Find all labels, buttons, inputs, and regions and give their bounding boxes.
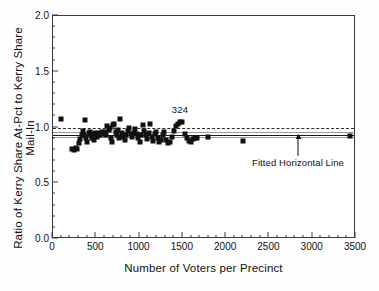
data-point xyxy=(171,129,176,134)
data-point xyxy=(137,139,142,144)
x-tick-label: 1500 xyxy=(171,241,193,252)
y-tick-minor xyxy=(52,148,55,149)
x-tick-minor xyxy=(164,235,165,238)
x-tick-minor xyxy=(259,235,260,238)
y-tick-minor xyxy=(52,193,55,194)
x-tick-minor xyxy=(329,235,330,238)
y-tick-major xyxy=(52,238,58,239)
y-tick-label: 1.0 xyxy=(35,121,49,132)
x-tick-minor xyxy=(147,235,148,238)
x-tick-minor xyxy=(103,235,104,238)
data-point xyxy=(154,129,159,134)
x-tick-major xyxy=(355,232,356,238)
x-tick-major xyxy=(138,232,139,238)
data-point xyxy=(109,139,114,144)
x-tick-label: 3000 xyxy=(301,241,323,252)
data-point xyxy=(169,134,174,139)
x-tick-minor xyxy=(60,235,61,238)
fitted-line-callout: Fitted Horizontal Line xyxy=(252,157,344,168)
x-tick-minor xyxy=(77,235,78,238)
y-tick-minor xyxy=(52,215,55,216)
y-tick-minor xyxy=(52,204,55,205)
plot-area: 324Fitted Horizontal Line xyxy=(53,16,354,237)
x-axis-title: Number of Voters per Precinct xyxy=(52,262,355,274)
y-axis-title: Ratio of Kerry Share At-Pct to Kerry Sha… xyxy=(12,18,36,258)
x-tick-label: 1000 xyxy=(127,241,149,252)
data-point xyxy=(140,123,145,128)
x-tick-major xyxy=(225,232,226,238)
data-point xyxy=(180,120,185,125)
y-tick-minor xyxy=(52,59,55,60)
x-tick-minor xyxy=(285,235,286,238)
x-tick-minor xyxy=(112,235,113,238)
x-tick-minor xyxy=(207,235,208,238)
y-tick-label: 1.5 xyxy=(35,65,49,76)
x-tick-major xyxy=(95,232,96,238)
data-point xyxy=(240,139,245,144)
x-tick-minor xyxy=(251,235,252,238)
y-tick-label: 0.5 xyxy=(35,177,49,188)
x-tick-minor xyxy=(86,235,87,238)
y-tick-minor xyxy=(52,48,55,49)
data-point xyxy=(205,135,210,140)
x-tick-label: 2500 xyxy=(257,241,279,252)
data-point xyxy=(118,117,123,122)
y-tick-minor xyxy=(52,37,55,38)
unity-dashed-line xyxy=(53,128,354,129)
x-tick-minor xyxy=(233,235,234,238)
fitted-line-arrow-icon xyxy=(297,135,298,156)
data-point xyxy=(59,117,64,122)
x-tick-label: 2000 xyxy=(214,241,236,252)
point-label-324: 324 xyxy=(172,104,188,115)
y-tick-minor xyxy=(52,159,55,160)
y-tick-major xyxy=(52,70,58,71)
x-tick-minor xyxy=(346,235,347,238)
x-tick-major xyxy=(311,232,312,238)
x-tick-major xyxy=(268,232,269,238)
y-tick-minor xyxy=(52,171,55,172)
data-point xyxy=(148,121,153,126)
x-tick-minor xyxy=(320,235,321,238)
cropped-caption xyxy=(10,283,369,290)
y-tick-minor xyxy=(52,226,55,227)
y-tick-minor xyxy=(52,115,55,116)
x-tick-minor xyxy=(199,235,200,238)
x-tick-minor xyxy=(129,235,130,238)
y-tick-major xyxy=(52,15,58,16)
data-point xyxy=(347,134,352,139)
x-tick-major xyxy=(181,232,182,238)
y-tick-minor xyxy=(52,81,55,82)
y-tick-major xyxy=(52,126,58,127)
x-tick-minor xyxy=(242,235,243,238)
y-tick-major xyxy=(52,182,58,183)
x-tick-minor xyxy=(155,235,156,238)
data-point xyxy=(83,117,88,122)
figure: Ratio of Kerry Share At-Pct to Kerry Sha… xyxy=(0,0,379,291)
x-tick-minor xyxy=(216,235,217,238)
data-point xyxy=(195,136,200,141)
y-tick-minor xyxy=(52,93,55,94)
x-tick-minor xyxy=(190,235,191,238)
y-tick-label: 2.0 xyxy=(35,10,49,21)
plot-frame: 324Fitted Horizontal Line xyxy=(52,15,355,238)
data-point xyxy=(75,146,80,151)
x-tick-minor xyxy=(69,235,70,238)
data-point xyxy=(167,139,172,144)
y-tick-label: 0.0 xyxy=(35,233,49,244)
x-tick-label: 0 xyxy=(49,241,55,252)
x-tick-label: 3500 xyxy=(344,241,366,252)
x-tick-minor xyxy=(337,235,338,238)
data-point xyxy=(112,121,117,126)
data-point xyxy=(162,130,167,135)
data-point xyxy=(122,137,127,142)
x-tick-minor xyxy=(303,235,304,238)
x-tick-minor xyxy=(294,235,295,238)
y-tick-minor xyxy=(52,137,55,138)
x-tick-minor xyxy=(173,235,174,238)
x-tick-minor xyxy=(121,235,122,238)
x-tick-label: 500 xyxy=(87,241,104,252)
y-tick-minor xyxy=(52,104,55,105)
x-tick-minor xyxy=(277,235,278,238)
y-tick-minor xyxy=(52,26,55,27)
